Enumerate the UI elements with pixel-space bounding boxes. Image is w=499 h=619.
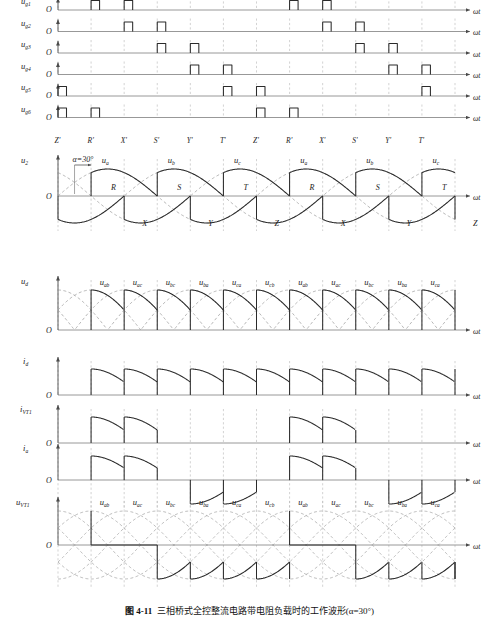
ud-segment-label: uca (430, 277, 440, 288)
phase-label-c: uc (234, 155, 241, 166)
axis-label-omega-t: ωt (473, 114, 481, 123)
x-tick-label: X' (318, 136, 326, 145)
id-conducting-segment (157, 369, 190, 382)
ivt1-conducting-segment (124, 417, 157, 430)
origin-label: O (46, 70, 52, 79)
x-tick-label: Z' (253, 136, 259, 145)
id-conducting-segment (190, 369, 223, 382)
x-tick-label: S' (154, 136, 160, 145)
id-conducting-segment (422, 369, 454, 382)
phase-sine-solid-upper (422, 169, 455, 173)
axis-label-omega-t: ωt (473, 93, 481, 102)
marker-lower: X (141, 219, 148, 228)
x-tick-label: Y' (187, 136, 193, 145)
ia-positive-segment (91, 456, 123, 468)
signal-label: ug4 (21, 61, 31, 72)
uvt1-segment-label: uac (133, 497, 143, 508)
phase-label-c: uc (432, 155, 439, 166)
ud-segment-label: uca (232, 277, 242, 288)
uvt1-blocking-segment (257, 562, 290, 579)
ud-conducting-segment (257, 290, 290, 310)
uvt1-segment-label: uab (298, 497, 308, 508)
gate-pulse (190, 44, 199, 54)
ud-segment-label: ubc (166, 277, 176, 288)
marker-lower: X (340, 219, 347, 228)
gate-pulse (389, 44, 398, 54)
gate-pulse (124, 22, 133, 32)
ivt1-conducting-segment (290, 417, 323, 430)
uvt1-segment-label: uba (397, 497, 407, 508)
gate-pulse (91, 108, 100, 118)
axis-label-omega-t: ωt (473, 71, 481, 80)
origin-label: O (46, 113, 52, 122)
x-tick-label: R' (285, 136, 293, 145)
ivt1-conducting-segment (91, 417, 123, 430)
marker-lower: Y (407, 219, 413, 228)
gate-pulse (223, 65, 232, 75)
ud-conducting-segment (91, 290, 123, 309)
signal-label: ug6 (21, 104, 31, 115)
marker-lower: Y (208, 219, 214, 228)
gate-pulse (422, 65, 431, 75)
uvt1-blocking-segment (190, 562, 223, 579)
id-section: ωtidO (23, 356, 481, 401)
gate-pulse-row-g6: ωtug6O (21, 104, 481, 124)
ud-conducting-segment (190, 290, 223, 310)
axis-label-omega-t: ωt (473, 28, 481, 37)
ud-conducting-segment (223, 290, 256, 310)
axis-label-omega-t: ωt (473, 440, 481, 449)
marker-lower: Z (473, 219, 478, 228)
axis-label-omega-t: ωt (473, 193, 481, 202)
tick-label-row: Z'R'X'S'Y'T'Z'R'X'S'Y'T' (55, 136, 425, 145)
axis-label-omega-t: ωt (473, 50, 481, 59)
marker-upper: S (177, 183, 181, 192)
ud-conducting-segment (389, 290, 421, 309)
uvt1-blocking-segment (356, 563, 388, 579)
origin-label: O (46, 391, 52, 400)
ia-positive-segment (124, 456, 157, 468)
line-voltage-dashed (76, 290, 373, 330)
origin-label: O (46, 476, 52, 485)
id-conducting-segment (323, 369, 355, 382)
ud-conducting-segment (157, 290, 190, 310)
gate-pulse (389, 65, 398, 75)
signal-label: ug3 (21, 39, 31, 50)
marker-upper: R (110, 183, 116, 192)
origin-label: O (46, 326, 52, 335)
axis-label-omega-t: ωt (473, 327, 481, 336)
gate-pulse (257, 108, 266, 118)
gate-pulse (124, 1, 133, 11)
ud-segment-label: uba (199, 277, 209, 288)
id-conducting-segment (91, 369, 123, 382)
ud-conducting-segment (356, 290, 388, 309)
uvt1-segment-label: uca (430, 497, 440, 508)
uvt1-segment-label: ubc (166, 497, 176, 508)
origin-label: O (46, 192, 52, 201)
signal-label: uVT1 (16, 497, 30, 508)
phase-label-a: ua (102, 155, 109, 166)
uvt1-segment-label: ucb (265, 497, 275, 508)
ud-conducting-segment (124, 290, 157, 310)
x-tick-label: X' (120, 136, 128, 145)
uvt1-segment-label: uba (199, 497, 209, 508)
phase-label-b: ub (366, 155, 373, 166)
id-conducting-segment (290, 369, 323, 382)
u2-section: ωtu2Oα=30°uaubucuaubucRSTRSTXYZXYZ (21, 155, 481, 231)
x-tick-label: T' (220, 136, 226, 145)
alpha-label: α=30° (73, 155, 95, 164)
gate-pulse (58, 87, 67, 97)
axis-label-omega-t: ωt (473, 7, 481, 16)
gate-pulse (58, 108, 67, 118)
uvt1-blocking-segment (157, 562, 190, 579)
ud-segment-label: uba (397, 277, 407, 288)
ud-conducting-segment (290, 290, 323, 310)
signal-label: ug2 (21, 18, 31, 29)
signal-label: iVT1 (20, 404, 32, 415)
uvt1-segment-label: uac (331, 497, 341, 508)
uvt1-segment-label: ubc (364, 497, 374, 508)
x-tick-label: R' (87, 136, 95, 145)
line-voltage-dashed (109, 290, 406, 330)
ud-segment-label: ubc (364, 277, 374, 288)
signal-label: id (23, 356, 28, 367)
marker-upper: T (442, 183, 447, 192)
